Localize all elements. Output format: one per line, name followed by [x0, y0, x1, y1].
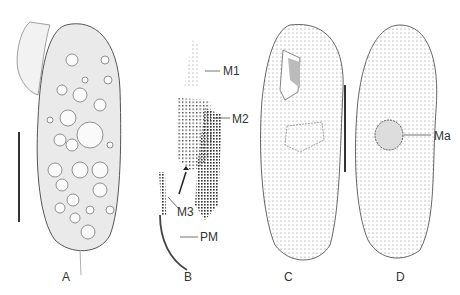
- panel-label-c: C: [284, 270, 293, 284]
- panel-label-a: A: [62, 270, 70, 284]
- panel-c-ventral-view: [261, 24, 344, 260]
- label-pm: PM: [200, 230, 218, 244]
- panel-label-b: B: [184, 270, 192, 284]
- figure-canvas: [0, 0, 460, 295]
- label-m3: M3: [177, 205, 194, 219]
- label-m2: M2: [232, 112, 249, 126]
- panel-d-dorsal-view: [355, 25, 436, 258]
- panel-b-oral-apparatus: [159, 40, 230, 270]
- label-m1: M1: [223, 64, 240, 78]
- label-ma: Ma: [434, 129, 451, 143]
- panel-a-cell: [17, 22, 121, 275]
- panel-label-d: D: [396, 270, 405, 284]
